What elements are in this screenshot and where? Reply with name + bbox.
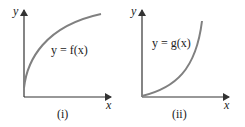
curve-label-f: y = f(x) [51,43,88,57]
y-axis-label: y [12,4,19,18]
panel-ii: y x y = g(x) (ii) [130,4,230,121]
curve-label-g: y = g(x) [152,36,191,50]
y-axis-label: y [130,4,137,18]
curve-g [142,21,202,96]
function-graphs-figure: y x y = f(x) (i) y x y = g(x) (ii) [0,0,245,127]
panel-caption: (ii) [172,107,187,121]
x-axis-label: x [223,98,230,112]
panel-caption: (i) [57,107,68,121]
panel-i: y x y = f(x) (i) [12,4,112,121]
x-axis-label: x [105,98,112,112]
